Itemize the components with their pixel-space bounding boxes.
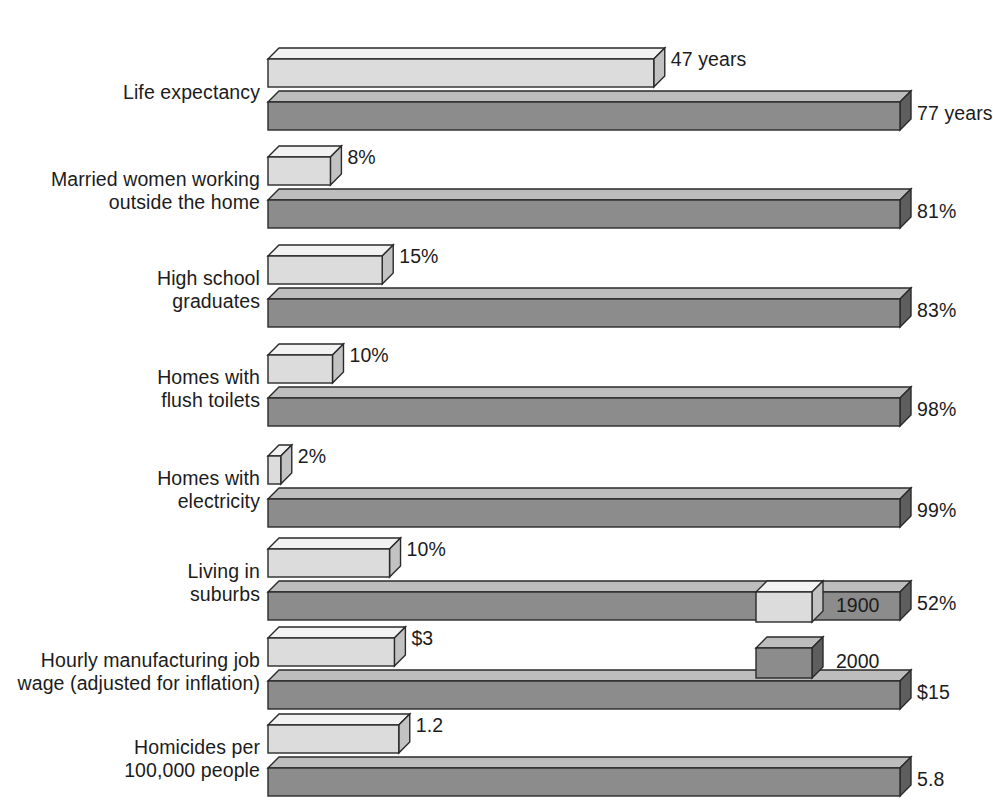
bar-2000 [268,91,911,130]
bar-2000 [268,488,911,527]
value-label-1900: 15% [399,246,438,266]
bar-1900 [268,714,410,753]
bar-1900 [268,445,292,484]
category-label: Homicides per 100,000 people [0,736,260,782]
value-label-1900: 10% [349,345,388,365]
bar-1900 [268,48,665,87]
bar-2000 [268,288,911,327]
bar-1900 [268,146,341,185]
category-label: Homes with electricity [0,467,260,513]
value-label-1900: $3 [411,628,433,648]
category-label: Life expectancy [0,81,260,104]
bar-1900 [268,245,393,284]
category-label: Married women working outside the home [0,168,260,214]
value-label-1900: 10% [407,539,446,559]
value-label-2000: 83% [917,300,956,320]
category-label: High school graduates [0,267,260,313]
legend-label-2000: 2000 [836,650,879,672]
value-label-1900: 8% [347,147,375,167]
category-label: Homes with flush toilets [0,366,260,412]
legend-swatch-2000 [756,637,823,678]
value-label-1900: 1.2 [416,715,443,735]
value-label-1900: 47 years [671,49,747,69]
bar-2000 [268,387,911,426]
value-label-2000: 5.8 [917,769,944,789]
chart-legend: 19002000 [752,578,952,678]
category-label: Living in suburbs [0,560,260,606]
bar-2000 [268,189,911,228]
bar-1900 [268,627,405,666]
value-label-1900: 2% [298,446,326,466]
value-label-2000: 81% [917,201,956,221]
legend-label-1900: 1900 [836,594,879,616]
legend-swatch-1900 [756,581,823,622]
value-label-2000: 77 years [917,103,993,123]
value-label-2000: 99% [917,500,956,520]
bar-1900 [268,344,343,383]
bar-2000 [268,757,911,796]
bar-1900 [268,538,401,577]
value-label-2000: 98% [917,399,956,419]
category-label: Hourly manufacturing job wage (adjusted … [0,649,260,695]
